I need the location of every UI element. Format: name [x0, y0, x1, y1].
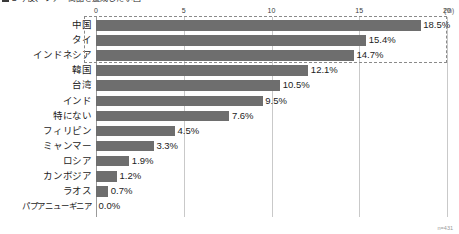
bar	[96, 35, 366, 46]
category-label: ラオス	[0, 183, 92, 200]
bar	[96, 186, 108, 197]
category-label: ミャンマー	[0, 138, 92, 155]
category-label: インド	[0, 93, 92, 110]
title-marker-icon	[2, 0, 9, 2]
x-axis-unit: (%)	[444, 6, 454, 15]
x-axis: 05101520 (%)	[0, 6, 459, 17]
bar	[96, 111, 229, 122]
x-tick-label: 15	[355, 6, 363, 15]
category-label: インドネシア	[0, 47, 92, 64]
category-label: 台湾	[0, 77, 92, 94]
category-label: 特にない	[0, 108, 92, 125]
bar-row: フィリピン4.5%	[0, 123, 459, 140]
chart-title-text: ■ 今後、ツアー商品を造成したい国	[12, 0, 141, 3]
bar-value-label: 7.6%	[232, 108, 254, 125]
bar-row: 中国18.5%	[0, 17, 459, 34]
bar	[96, 156, 129, 167]
category-label: タイ	[0, 32, 92, 49]
category-label: カンボジア	[0, 168, 92, 185]
bar-row: 韓国12.1%	[0, 62, 459, 79]
bar-row: ロシア1.9%	[0, 153, 459, 170]
bar-value-label: 9.5%	[265, 93, 287, 110]
category-label: ロシア	[0, 153, 92, 170]
x-tick-label: 5	[182, 6, 186, 15]
category-label: フィリピン	[0, 123, 92, 140]
category-label: 中国	[0, 17, 92, 34]
bar-value-label: 3.3%	[156, 138, 178, 155]
bar-value-label: 12.1%	[311, 62, 338, 79]
category-label: 韓国	[0, 62, 92, 79]
bar	[96, 171, 117, 182]
bar	[96, 65, 308, 76]
bar-row: ミャンマー3.3%	[0, 138, 459, 155]
bar-value-label: 0.7%	[111, 183, 133, 200]
bar-row: カンボジア1.2%	[0, 168, 459, 185]
bar-row: 特にない7.6%	[0, 108, 459, 125]
category-label: パプアニューギニア	[0, 198, 92, 215]
bar-value-label: 0.0%	[99, 198, 121, 215]
x-tick-label: 10	[268, 6, 276, 15]
bar-row: パプアニューギニア0.0%	[0, 198, 459, 215]
bar-value-label: 10.5%	[283, 77, 310, 94]
bar-value-label: 1.9%	[132, 153, 154, 170]
bar-row: タイ15.4%	[0, 32, 459, 49]
bar-chart: ■ 今後、ツアー商品を造成したい国 05101520 (%) 中国18.5%タイ…	[0, 0, 459, 234]
bar	[96, 126, 175, 137]
bar-row: 台湾10.5%	[0, 77, 459, 94]
x-tick-label: 0	[94, 6, 98, 15]
sample-size-note: n=431	[438, 225, 453, 232]
bar	[96, 50, 354, 61]
bar	[96, 80, 280, 91]
bar-row: インドネシア14.7%	[0, 47, 459, 64]
bar-row: インド9.5%	[0, 93, 459, 110]
bar-row: ラオス0.7%	[0, 183, 459, 200]
bar	[96, 141, 154, 152]
chart-title: ■ 今後、ツアー商品を造成したい国	[2, 0, 141, 3]
bar	[96, 96, 263, 107]
bar-value-label: 18.5%	[423, 17, 450, 34]
bar-value-label: 15.4%	[369, 32, 396, 49]
bar-value-label: 14.7%	[356, 47, 383, 64]
bar	[96, 20, 421, 31]
bar-value-label: 1.2%	[120, 168, 142, 185]
bar-value-label: 4.5%	[177, 123, 199, 140]
